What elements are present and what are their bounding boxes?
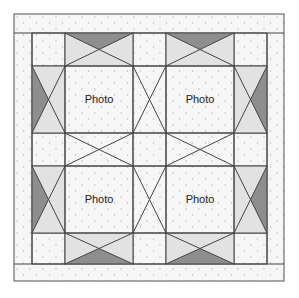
x-block-bottom-right — [166, 233, 234, 264]
outer-border — [14, 14, 284, 281]
x-block-right-top — [234, 66, 267, 133]
photo-label: Photo — [85, 93, 114, 105]
x-block-top-right — [166, 33, 234, 66]
x-block-left-bottom — [32, 166, 65, 233]
photo-label: Photo — [85, 193, 114, 205]
quilt-diagram: Photo Photo Photo Photo — [0, 0, 299, 298]
x-block-right-bottom — [234, 166, 267, 233]
photo-label: Photo — [186, 93, 215, 105]
photo-label: Photo — [186, 193, 215, 205]
x-block-bottom-left — [65, 233, 133, 264]
x-block-left-top — [32, 66, 65, 133]
x-block-top-left — [65, 33, 133, 66]
